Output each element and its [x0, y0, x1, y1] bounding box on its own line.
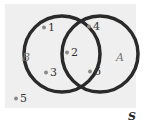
point-dot — [88, 70, 92, 74]
set-label-a: A — [115, 51, 124, 64]
universe-label: S — [128, 110, 136, 123]
point-dot — [44, 71, 48, 75]
point-label: 6 — [94, 65, 101, 78]
point-dot — [42, 26, 46, 30]
point-dot — [65, 51, 69, 55]
point-label: 1 — [48, 21, 55, 34]
point-label: 2 — [71, 46, 78, 59]
point-label: 4 — [93, 20, 100, 33]
set-label-b: B — [21, 51, 30, 64]
point-dot — [87, 25, 91, 29]
venn-diagram: BA 142365 S — [0, 0, 151, 123]
point-label: 3 — [50, 66, 57, 79]
point-dot — [14, 97, 18, 101]
point-label: 5 — [20, 92, 27, 105]
